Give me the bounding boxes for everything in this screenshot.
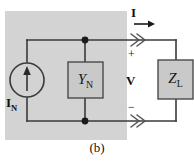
polarity-plus-label: + [128, 48, 135, 60]
figure-caption: (b) [0, 140, 194, 156]
polarity-minus-label: − [128, 101, 135, 113]
node-dot-top [82, 37, 89, 44]
admittance-label: YN [68, 62, 103, 98]
load-impedance-label: ZL [158, 60, 193, 99]
current-flow-arrow [134, 21, 155, 28]
load-impedance-subscript: L [177, 78, 183, 89]
independent-current-source [10, 63, 44, 97]
terminal-voltage-label: V [126, 74, 135, 87]
load-impedance-text: ZL [168, 70, 182, 89]
admittance-symbol: Y [78, 71, 86, 87]
circuit-figure: IN I V + − YN ZL (b) [0, 0, 194, 163]
admittance-subscript: N [86, 79, 93, 90]
node-dot-bottom [82, 118, 89, 125]
source-current-subscript: N [11, 103, 17, 113]
current-flow-arrow-head [148, 21, 155, 28]
load-impedance-symbol: Z [168, 70, 176, 86]
admittance-text: YN [78, 71, 93, 90]
terminal-voltage-symbol: V [126, 73, 135, 88]
source-current-label: IN [6, 96, 17, 112]
line-current-symbol: I [131, 5, 136, 20]
line-current-label: I [131, 6, 136, 19]
